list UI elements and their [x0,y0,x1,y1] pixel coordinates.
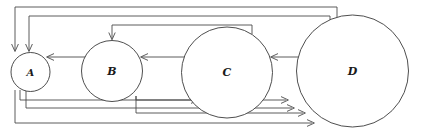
edge-c-to-b-mid [141,54,186,61]
graph-svg: A B C D [0,0,421,134]
edge-d-to-a-inner [26,16,330,52]
edge-path [15,90,312,123]
node-b-label: B [106,65,116,78]
node-a[interactable]: A [11,53,50,92]
edge-path [29,16,330,50]
node-d-label: D [347,65,358,78]
node-layer: A B C D [11,15,409,127]
diagram-canvas: A B C D [0,0,421,134]
node-b[interactable]: B [82,41,143,102]
edge-path [15,7,337,50]
node-d[interactable]: D [297,15,409,127]
edge-d-to-c [271,54,300,61]
edge-layer [12,7,337,126]
node-c[interactable]: C [182,27,273,118]
node-c-label: C [223,66,232,79]
edge-b-to-a [47,54,86,61]
node-a-label: A [26,67,35,78]
edge-d-to-a-outer [12,7,337,52]
